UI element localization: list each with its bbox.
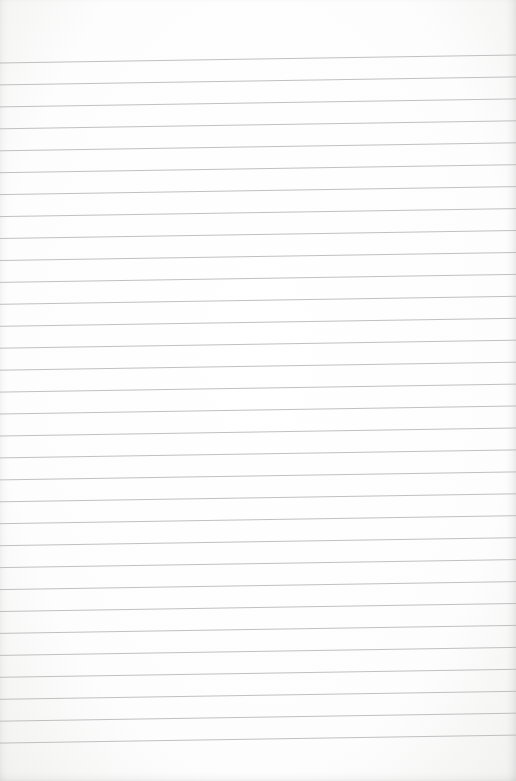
ruled-line (0, 99, 516, 107)
ruled-line (0, 362, 516, 370)
ruled-line (0, 472, 516, 480)
ruled-line (0, 604, 516, 612)
ruled-line (0, 735, 516, 743)
ruled-line (0, 384, 516, 392)
ruled-line (0, 209, 516, 217)
ruled-line (0, 121, 516, 129)
ruled-line (0, 318, 516, 326)
ruled-line (0, 187, 516, 195)
ruled-line (0, 494, 516, 502)
ruled-line (0, 625, 516, 633)
ruled-line (0, 165, 516, 173)
ruled-line (0, 669, 516, 677)
ruled-line (0, 516, 516, 524)
ruled-line (0, 296, 516, 304)
ruled-line (0, 428, 516, 436)
ruled-line (0, 143, 516, 151)
ruled-line (0, 340, 516, 348)
ruled-line (0, 560, 516, 568)
ruled-line (0, 406, 516, 414)
ruled-line (0, 274, 516, 282)
ruled-line (0, 253, 516, 261)
ruled-line (0, 582, 516, 590)
ruled-line (0, 691, 516, 699)
ruled-line (0, 231, 516, 239)
ruled-lines (0, 0, 516, 781)
ruled-line (0, 647, 516, 655)
ruled-line (0, 77, 516, 85)
ruled-line (0, 55, 516, 63)
lined-paper-sheet (0, 0, 516, 781)
ruled-line (0, 450, 516, 458)
ruled-line (0, 713, 516, 721)
ruled-line (0, 538, 516, 546)
